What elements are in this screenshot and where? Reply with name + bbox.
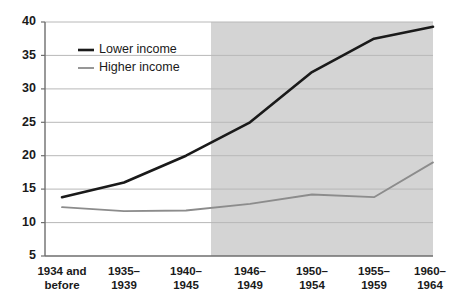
x-tick-label: 1946– <box>234 265 267 277</box>
y-tick-label: 40 <box>22 14 36 28</box>
x-tick-label: 1964 <box>417 279 443 291</box>
x-tick-label: 1950– <box>296 265 329 277</box>
y-tick-label: 10 <box>22 215 36 229</box>
y-tick-label: 20 <box>22 148 36 162</box>
chart-canvas: 40 35 30 25 20 15 10 5 1934 and before 1… <box>0 0 456 300</box>
x-tick-label: 1955– <box>358 265 391 277</box>
y-tick-label: 35 <box>22 48 36 62</box>
line-chart: 40 35 30 25 20 15 10 5 1934 and before 1… <box>0 0 456 300</box>
legend-entry-label: Higher income <box>99 60 180 74</box>
x-tick-label: 1935– <box>108 265 141 277</box>
x-tick-label: 1954 <box>299 279 325 291</box>
shaded-region-band <box>211 22 433 256</box>
x-tick-label: 1934 and <box>37 265 86 277</box>
legend-entry-higher-income: Higher income <box>78 60 180 74</box>
legend-entry-lower-income: Lower income <box>78 42 177 56</box>
x-tick-label: 1959 <box>361 279 387 291</box>
x-tick-label: 1949 <box>237 279 263 291</box>
x-tick-label: 1960– <box>414 265 447 277</box>
y-tick-label: 15 <box>22 181 36 195</box>
y-tick-label: 5 <box>29 248 36 262</box>
y-tick-label: 25 <box>22 115 36 129</box>
x-axis-tick-labels: 1934 and before 1935– 1939 1940– 1945 19… <box>37 265 446 291</box>
y-axis-tick-labels: 40 35 30 25 20 15 10 5 <box>22 14 36 262</box>
chart-legend: Lower income Higher income <box>78 42 180 74</box>
x-tick-label: 1939 <box>111 279 137 291</box>
legend-entry-label: Lower income <box>99 42 177 56</box>
x-tick-label: 1945 <box>173 279 199 291</box>
y-tick-label: 30 <box>22 81 36 95</box>
x-tick-label: 1940– <box>170 265 203 277</box>
x-tick-label: before <box>44 279 79 291</box>
